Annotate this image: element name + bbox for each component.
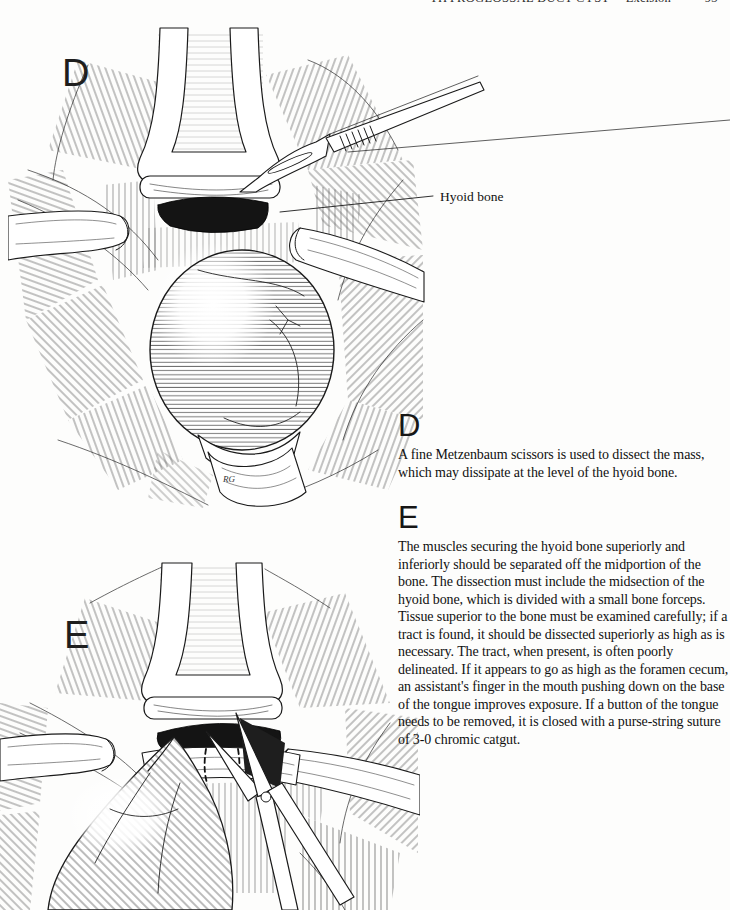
running-head-section: Excision — [626, 0, 671, 6]
caption-d-text: A fine Metzenbaum scissors is used to di… — [398, 446, 730, 481]
caption-e: E The muscles securing the hyoid bone su… — [398, 502, 730, 748]
figure-e-left-retractor — [0, 734, 115, 781]
hyoid-bone-label: Hyoid bone — [440, 189, 503, 204]
caption-e-text: The muscles securing the hyoid bone supe… — [398, 538, 730, 748]
running-header: THYROGLOSSAL DUCT CYST Excision 93 — [430, 0, 718, 6]
caption-e-heading: E — [398, 502, 730, 533]
page-number: 93 — [705, 0, 718, 6]
running-head-title: THYROGLOSSAL DUCT CYST — [430, 0, 610, 6]
book-page: THYROGLOSSAL DUCT CYST Excision 93 D E — [0, 0, 730, 910]
figure-d-wound-opening — [158, 197, 269, 233]
caption-d: D A fine Metzenbaum scissors is used to … — [398, 410, 730, 481]
figure-d-cyst — [150, 243, 334, 450]
figure-e-illustration — [0, 553, 420, 910]
artist-signature: RG — [222, 474, 235, 484]
caption-d-heading: D — [398, 410, 730, 441]
